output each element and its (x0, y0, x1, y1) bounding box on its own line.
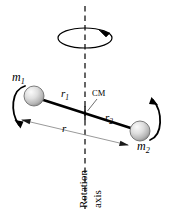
center-of-mass-leader-line (88, 99, 98, 111)
connecting-rod (34, 97, 140, 131)
mass2-sphere (130, 121, 150, 141)
radius1-subscript: 1 (65, 93, 69, 102)
mass1-motion-arrowhead (15, 120, 24, 129)
radius1-label: r1 (61, 88, 69, 99)
mass2-label: m2 (137, 140, 150, 152)
mass2-symbol: m (137, 139, 146, 153)
mass2-subscript: 2 (146, 146, 150, 155)
mass2-motion-arc (150, 100, 160, 140)
rotation-axis-label-line1: Rotation (78, 170, 89, 208)
mass2-motion-arrowhead (149, 97, 158, 105)
total-separation-label: r (62, 123, 66, 134)
mass1-sphere (24, 86, 44, 106)
total-separation-arrowhead-right (119, 141, 129, 146)
mass1-label: m1 (12, 71, 25, 83)
mass1-subscript: 1 (21, 77, 25, 86)
total-separation-symbol: r (62, 122, 66, 134)
rotation-diagram: m1 m2 r1 r2 r CM Rotation axis (0, 0, 170, 215)
mass1-symbol: m (12, 70, 21, 84)
mass1-motion-arc (13, 86, 25, 125)
radius2-subscript: 2 (109, 117, 113, 126)
center-of-mass-label: CM (92, 89, 106, 98)
rotation-axis-label-line2: axis (92, 190, 103, 208)
radius2-label: r2 (105, 112, 113, 123)
